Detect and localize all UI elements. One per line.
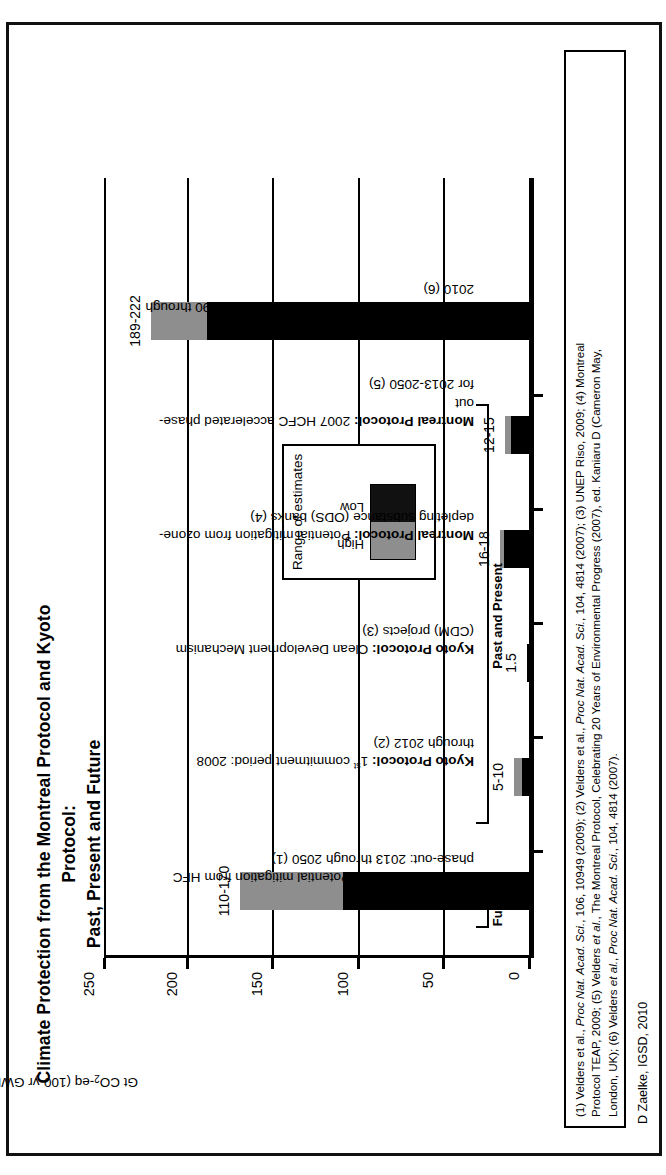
- x-tick-1: [534, 850, 543, 853]
- ref-line1-c: , 104, 4814 (2007); (3) UNEP Riso, 2009;…: [573, 343, 586, 621]
- group-label-past-present: Past and Present: [490, 508, 505, 724]
- ref-line1-i: Proc Nat. Acad. Sci.: [573, 923, 586, 1026]
- tick-150: [271, 958, 274, 969]
- title-line-1: Climate Protection from the Montreal Pro…: [32, 564, 82, 1124]
- gridline-250: [104, 178, 106, 958]
- category-label-hfc: Montreal Protocol: Potential mitigation …: [144, 849, 474, 886]
- ref-line1-i2: Proc Nat. Acad. Sci.: [573, 621, 586, 724]
- tick-50: [442, 958, 445, 969]
- gridline-0: [529, 178, 531, 958]
- ref-line2-b: , The Montreal Protocol, Celebrating 20 …: [589, 349, 602, 920]
- category-ordinal: st: [354, 761, 361, 771]
- y-caption-mid: -eq (100-yr GWP): [0, 1075, 94, 1090]
- chart-frame: Climate Protection from the Montreal Pro…: [6, 22, 662, 1156]
- tick-100: [357, 958, 360, 969]
- y-caption-subscript: 2: [94, 1073, 100, 1084]
- category-label-ods-phaseout: Montreal Protocol: Phase-out of ODSs: 19…: [144, 279, 474, 316]
- ref-line3-b: ,: [606, 955, 619, 961]
- category-bold: Montreal Protocol:: [354, 528, 474, 543]
- category-rest: 1: [361, 754, 372, 769]
- title-line-2: Past, Present and Future: [82, 564, 107, 1124]
- category-label-cdm: Kyoto Protocol: Clean Development Mechan…: [144, 621, 474, 658]
- bar-value-label: 1.5: [503, 653, 519, 672]
- ref-line3-i: et al.: [606, 961, 619, 986]
- bar-kyoto-commitment[interactable]: 5-10: [514, 758, 531, 796]
- category-bold: Kyoto Protocol:: [372, 754, 474, 769]
- rotated-chart-canvas: Climate Protection from the Montreal Pro…: [24, 34, 644, 1144]
- category-rest: Clean Development Mechanism: [176, 642, 372, 657]
- references-box: (1) Velders et al., Proc Nat. Acad. Sci.…: [564, 50, 626, 1128]
- category-rest2: commitment period: 2008: [197, 754, 354, 769]
- category-label-ods-banks: Montreal Protocol: Potential mitigation …: [144, 507, 474, 544]
- y-axis-line: [104, 955, 534, 958]
- ref-line3-c: , 104, 4814 (2007).: [606, 753, 619, 851]
- category-bold: Montreal Protocol:: [354, 300, 474, 315]
- bar-value-label: 189-222: [127, 295, 143, 346]
- category-rest: Potential mitigation from HFC: [173, 870, 354, 885]
- category-bold: Montreal Protocol:: [354, 414, 474, 429]
- bar-low-segment: [511, 416, 532, 454]
- tick-label-150: 150: [249, 972, 265, 1016]
- category-line2: for 2013-2050 (5): [369, 377, 474, 392]
- ref-line3-i2: Proc Nat. Acad. Sci.: [606, 851, 619, 954]
- bar-low-segment: [527, 644, 531, 682]
- chart-page: Climate Protection from the Montreal Pro…: [0, 0, 666, 1175]
- category-rest: Phase-out of ODSs: 1990 through: [145, 300, 354, 315]
- group-label-future: Future: [490, 854, 505, 958]
- x-axis-line: [531, 178, 534, 958]
- category-line2: 2010 (6): [423, 282, 474, 297]
- ref-line3-a: London, UK); (6) Velders: [606, 986, 619, 1117]
- category-line2: (CDM) projects (3): [362, 624, 474, 639]
- category-line2: phase-out: 2013 through 2050 (1): [271, 852, 474, 867]
- bar-low-segment: [522, 758, 531, 796]
- ref-line2-i: et al.: [589, 920, 602, 945]
- category-label-hcfc: Montreal Protocol: 2007 HCFC accelerated…: [144, 375, 474, 430]
- tick-0: [528, 958, 531, 969]
- bar-value-label: 5-10: [490, 763, 506, 791]
- bar-hcfc-accelerated[interactable]: 12-15: [505, 416, 531, 454]
- category-line2: through 2012 (2): [373, 736, 474, 751]
- bar-cdm-projects[interactable]: 1.5: [527, 644, 531, 682]
- tick-label-250: 250: [81, 972, 97, 1016]
- category-bold: Montreal Protocol:: [354, 870, 474, 885]
- category-line2: depleting substance (ODS) banks (4): [250, 510, 474, 525]
- tick-label-100: 100: [335, 972, 351, 1016]
- category-label-kyoto-commitment: Kyoto Protocol: 1st commitment period: 2…: [144, 734, 474, 772]
- tick-label-50: 50: [420, 972, 436, 1016]
- credit-line: D Zaelke, IGSD, 2010: [636, 1002, 650, 1124]
- bar-high-segment: [514, 758, 523, 796]
- x-tick-2: [534, 736, 543, 739]
- group-bracket-future: [476, 880, 489, 928]
- page-title: Climate Protection from the Montreal Pro…: [32, 564, 107, 1124]
- y-axis-caption: Gt CO2-eq (100-yr GWP) (direct effect on…: [0, 1073, 138, 1090]
- ref-line1-b: , 106, 10949 (2009); (2) Velders et al.,: [573, 724, 586, 923]
- x-tick-3: [534, 622, 543, 625]
- x-tick-5: [534, 394, 543, 397]
- group-bracket-past-present: [476, 404, 489, 824]
- y-caption-prefix: Gt CO: [100, 1075, 138, 1090]
- ref-line2-a: Protocol TEAP, 2009; (5) Velders: [589, 945, 602, 1117]
- category-bold: Kyoto Protocol:: [372, 642, 474, 657]
- bar-low-segment: [504, 530, 531, 568]
- category-rest: Potential mitigation from ozone-: [159, 528, 354, 543]
- ref-line1-a: (1) Velders et al.,: [573, 1026, 586, 1117]
- tick-label-200: 200: [164, 972, 180, 1016]
- tick-label-0: 0: [506, 972, 522, 1016]
- tick-250: [103, 958, 106, 969]
- x-tick-4: [534, 508, 543, 511]
- tick-200: [186, 958, 189, 969]
